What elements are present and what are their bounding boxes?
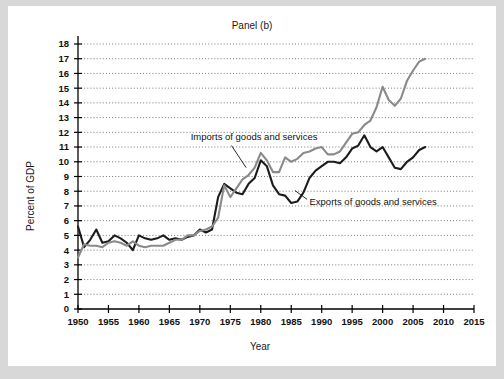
- x-tick-labels-group: 1950195519601965197019751980198519901995…: [67, 316, 485, 327]
- series-annotation-label: Imports of goods and services: [191, 131, 318, 142]
- y-tick-label: 9: [64, 171, 69, 182]
- x-axis-title: Year: [250, 341, 271, 352]
- x-tick-label: 1985: [281, 316, 303, 327]
- x-tick-label: 1970: [189, 316, 210, 327]
- y-tick-label: 12: [58, 127, 69, 138]
- y-tick-label: 1: [64, 289, 70, 300]
- x-tick-label: 2015: [463, 316, 485, 327]
- y-tick-label: 17: [58, 53, 69, 64]
- y-tick-label: 0: [64, 303, 69, 314]
- y-tick-label: 4: [64, 245, 70, 256]
- y-tick-label: 3: [64, 259, 69, 270]
- x-tick-label: 1995: [342, 316, 364, 327]
- x-tick-label: 2010: [433, 316, 454, 327]
- annotation-leader-line: [232, 146, 247, 168]
- y-tick-label: 16: [58, 68, 69, 79]
- x-tick-label: 1965: [159, 316, 181, 327]
- y-tick-label: 15: [58, 83, 69, 94]
- y-tick-label: 6: [64, 215, 69, 226]
- x-tick-label: 1955: [98, 316, 120, 327]
- y-tick-label: 5: [64, 230, 70, 241]
- y-tick-label: 14: [58, 97, 69, 108]
- y-tick-label: 13: [58, 112, 69, 123]
- x-tick-label: 2000: [372, 316, 393, 327]
- x-tick-label: 1980: [250, 316, 271, 327]
- x-tick-label: 1960: [128, 316, 149, 327]
- series-line: [78, 135, 425, 250]
- figure-panel: Panel (b) 0123456789101112131415161718 1…: [8, 6, 496, 366]
- y-tick-label: 11: [59, 141, 70, 152]
- y-tick-label: 10: [58, 156, 69, 167]
- y-tick-label: 7: [64, 200, 69, 211]
- series-annotation-label: Exports of goods and services: [310, 196, 438, 207]
- x-tick-label: 2005: [403, 316, 425, 327]
- x-tick-label: 1975: [220, 316, 242, 327]
- gridlines-group: [78, 44, 474, 294]
- y-tick-label: 2: [64, 274, 69, 285]
- tick-marks-group: [74, 44, 474, 313]
- y-tick-label: 18: [58, 38, 69, 49]
- x-tick-label: 1950: [67, 316, 88, 327]
- chart-svg: 0123456789101112131415161718 19501955196…: [8, 6, 496, 366]
- x-tick-label: 1990: [311, 316, 332, 327]
- y-axis-title: Percent of GDP: [25, 161, 36, 231]
- y-tick-labels-group: 0123456789101112131415161718: [58, 38, 69, 314]
- y-tick-label: 8: [64, 186, 69, 197]
